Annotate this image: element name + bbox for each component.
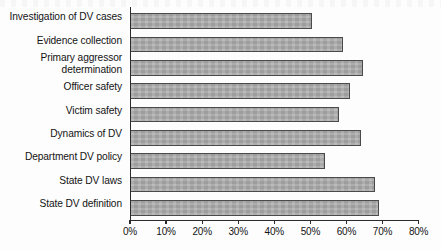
x-tick-label: 80%	[401, 226, 437, 237]
bar	[130, 107, 339, 123]
x-tick	[310, 220, 311, 224]
x-tick-label: 30%	[220, 226, 256, 237]
x-tick	[418, 220, 419, 224]
x-tick	[274, 220, 275, 224]
bar	[130, 153, 325, 169]
x-tick	[346, 220, 347, 224]
category-label: State DV definition	[40, 198, 122, 209]
category-label: Victim safety	[66, 105, 122, 116]
bar	[130, 60, 363, 76]
category-label: Investigation of DV cases	[10, 11, 122, 22]
x-tick-label: 40%	[256, 226, 292, 237]
x-tick-label: 20%	[184, 226, 220, 237]
category-label: Officer safety	[64, 81, 122, 92]
x-tick	[238, 220, 239, 224]
x-tick	[165, 220, 166, 224]
x-tick	[382, 220, 383, 224]
bar	[130, 200, 379, 216]
y-axis-line	[130, 7, 131, 220]
category-label: Primary aggressor determination	[40, 52, 122, 75]
x-tick	[202, 220, 203, 224]
bar	[130, 13, 312, 29]
bar	[130, 83, 350, 99]
category-label: Dynamics of DV	[50, 128, 122, 139]
category-axis-labels: Investigation of DV casesEvidence collec…	[0, 9, 126, 219]
bar-series	[130, 0, 430, 220]
category-label: Evidence collection	[37, 35, 122, 46]
x-tick	[129, 220, 130, 224]
category-label: Department DV policy	[25, 151, 122, 162]
category-label: State DV laws	[59, 175, 122, 186]
bar	[130, 37, 343, 53]
x-tick-label: 0%	[112, 226, 148, 237]
x-tick-label: 10%	[148, 226, 184, 237]
x-tick-label: 70%	[365, 226, 401, 237]
x-tick-label: 60%	[328, 226, 364, 237]
bar	[130, 130, 361, 146]
plot-area: Investigation of DV casesEvidence collec…	[0, 0, 441, 250]
bar	[130, 177, 375, 193]
horizontal-bar-chart: Investigation of DV casesEvidence collec…	[0, 0, 441, 250]
x-tick-label: 50%	[292, 226, 328, 237]
